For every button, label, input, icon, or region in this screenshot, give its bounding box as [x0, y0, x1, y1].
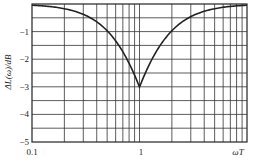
y-tick-label: −1 [19, 27, 29, 37]
y-axis-label: ΔL(ω)/dB [3, 54, 13, 91]
y-axis-ticks: −1−2−3−4−5 [19, 27, 29, 147]
x-tick-label: 1 [139, 147, 144, 157]
y-tick-label: −4 [19, 109, 29, 119]
chart: −1−2−3−4−5 0.1 1 ωT ΔL(ω)/dB [0, 0, 253, 162]
y-tick-label: −2 [19, 54, 29, 64]
y-tick-label: −5 [19, 137, 29, 147]
x-axis-label: ωT [232, 147, 244, 157]
x-tick-label: 0.1 [26, 147, 37, 157]
grid-lines [32, 4, 247, 142]
y-tick-label: −3 [19, 82, 29, 92]
